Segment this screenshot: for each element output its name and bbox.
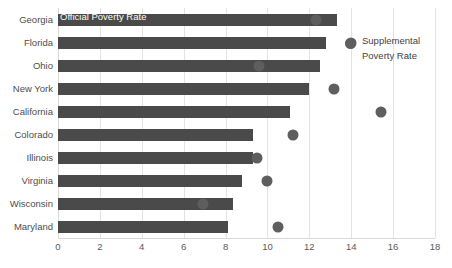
bar-official-poverty-rate [58, 37, 326, 49]
bar-official-poverty-rate [58, 60, 320, 72]
x-tick-label: 10 [262, 241, 273, 252]
legend-supplemental-text: Supplemental Poverty Rate [362, 33, 420, 63]
bar-official-poverty-rate [58, 83, 309, 95]
x-tick-label: 8 [223, 241, 228, 252]
x-tick-label: 2 [97, 241, 102, 252]
category-label: Maryland [14, 221, 53, 232]
legend-marker-icon [345, 38, 356, 49]
x-axis-tick-labels: 024681012141618 [58, 241, 435, 257]
x-tick-label: 4 [139, 241, 144, 252]
bar-official-poverty-rate [58, 129, 253, 141]
category-label: California [13, 106, 53, 117]
chart-row [58, 146, 435, 169]
x-tick-label: 0 [55, 241, 60, 252]
gridline [435, 8, 436, 238]
marker-supplemental-poverty-rate [287, 129, 298, 140]
chart-row [58, 77, 435, 100]
category-label: New York [13, 83, 53, 94]
category-label: Wisconsin [10, 198, 53, 209]
chart-row [58, 192, 435, 215]
bar-official-poverty-rate [58, 106, 290, 118]
category-label: Colorado [14, 129, 53, 140]
x-tick-label: 18 [430, 241, 441, 252]
poverty-rate-chart: GeorgiaFloridaOhioNew YorkCaliforniaColo… [0, 0, 452, 268]
x-axis-line [58, 238, 435, 239]
chart-row [58, 100, 435, 123]
chart-row [58, 215, 435, 238]
marker-supplemental-poverty-rate [262, 175, 273, 186]
marker-supplemental-poverty-rate [254, 60, 265, 71]
x-tick-label: 12 [304, 241, 315, 252]
category-label: Illinois [27, 152, 53, 163]
marker-supplemental-poverty-rate [251, 152, 262, 163]
bar-official-poverty-rate [58, 152, 253, 164]
series-label-official-poverty-rate: Official Poverty Rate [60, 10, 146, 24]
legend-line-2: Poverty Rate [362, 50, 417, 61]
marker-supplemental-poverty-rate [197, 198, 208, 209]
chart-row [58, 123, 435, 146]
marker-supplemental-poverty-rate [310, 14, 321, 25]
marker-supplemental-poverty-rate [375, 106, 386, 117]
category-label: Georgia [19, 14, 53, 25]
bar-official-poverty-rate [58, 175, 242, 187]
x-tick-label: 14 [346, 241, 357, 252]
marker-supplemental-poverty-rate [329, 83, 340, 94]
category-label: Florida [24, 37, 53, 48]
x-tick-label: 16 [388, 241, 399, 252]
bar-official-poverty-rate [58, 221, 228, 233]
category-label: Virginia [21, 175, 53, 186]
legend-line-1: Supplemental [362, 35, 420, 46]
marker-supplemental-poverty-rate [272, 221, 283, 232]
category-axis-labels: GeorgiaFloridaOhioNew YorkCaliforniaColo… [0, 8, 53, 238]
x-tick-label: 6 [181, 241, 186, 252]
category-label: Ohio [33, 60, 53, 71]
chart-row [58, 169, 435, 192]
